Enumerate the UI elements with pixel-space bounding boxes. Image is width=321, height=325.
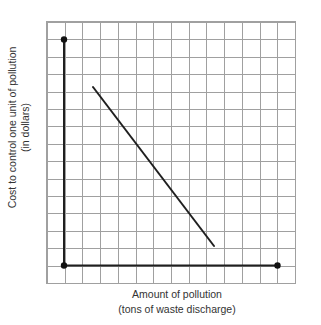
x-axis-label-line2: (tons of waste discharge): [46, 302, 308, 317]
origin-dot: [61, 262, 67, 268]
pollution-control-cost-figure: Cost to control one unit of pollution (i…: [0, 0, 321, 325]
x-axis-label-line1: Amount of pollution: [46, 287, 308, 302]
y-axis-label-line2: (in dollars): [19, 13, 32, 243]
cost-line: [93, 87, 214, 246]
x-axis-right-dot: [274, 262, 280, 268]
y-axis-label-line1: Cost to control one unit of pollution: [6, 13, 19, 243]
y-axis-label: Cost to control one unit of pollution (i…: [6, 13, 33, 243]
x-axis-label: Amount of pollution (tons of waste disch…: [46, 287, 308, 316]
y-axis-top-dot: [61, 36, 67, 42]
chart-canvas: [0, 0, 321, 325]
